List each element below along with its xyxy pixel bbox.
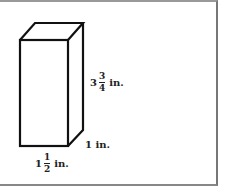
height-fraction: 3 4 [99,72,105,93]
prism-side-face [68,23,83,146]
prism-top-face [20,23,83,40]
width-label: 1 1 2 in. [35,153,69,174]
height-unit: in. [109,77,124,88]
width-numerator: 1 [44,153,50,162]
rectangular-prism [0,0,225,186]
width-fraction: 1 2 [44,153,50,174]
prism-front-face [20,40,68,146]
width-whole: 1 [35,158,42,169]
height-numerator: 3 [99,72,105,81]
height-whole: 3 [90,77,97,88]
height-label: 3 3 4 in. [90,72,124,93]
width-unit: in. [54,158,69,169]
height-denominator: 4 [99,84,105,93]
depth-label: 1 in. [85,139,110,150]
width-denominator: 2 [44,165,50,174]
